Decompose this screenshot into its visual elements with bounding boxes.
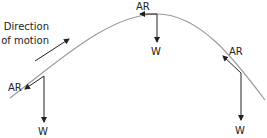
air-resistance-label: AR <box>136 1 150 12</box>
weight-label: W <box>151 46 161 57</box>
force-point-descending: AR W <box>223 46 245 136</box>
weight-label: W <box>38 126 48 137</box>
direction-label-line2: of motion <box>1 35 49 46</box>
air-resistance-label: AR <box>229 46 243 57</box>
weight-label: W <box>235 125 245 136</box>
projectile-force-diagram: Direction of motion AR W AR W AR W <box>0 0 267 138</box>
force-point-ascending: AR W <box>8 76 48 137</box>
air-resistance-label: AR <box>8 82 22 93</box>
direction-label-line1: Direction <box>4 21 49 32</box>
air-resistance-arrow <box>25 76 44 89</box>
force-point-peak: AR W <box>136 1 161 57</box>
